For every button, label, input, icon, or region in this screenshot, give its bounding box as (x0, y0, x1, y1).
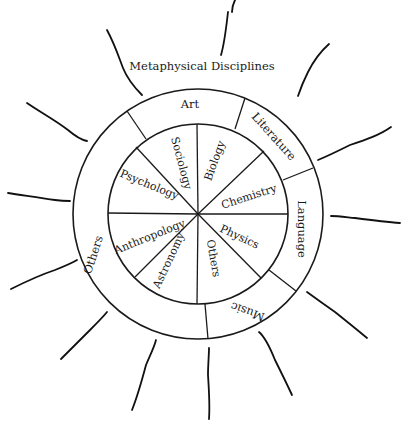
divider-art-literature (235, 98, 245, 129)
ray (221, 12, 228, 55)
divider-language-music (269, 270, 296, 291)
ray (307, 292, 367, 338)
outer-label-others: Others (80, 234, 106, 276)
outer-label-art: Art (180, 97, 200, 111)
ray (232, 0, 235, 12)
ray (61, 312, 107, 359)
ray (298, 44, 329, 96)
spoke (197, 124, 198, 214)
inner-label-physics: Physics (218, 222, 262, 252)
outer-label-literature: Literature (249, 110, 299, 164)
spoke (197, 214, 198, 304)
inner-label-chemistry: Chemistry (220, 181, 279, 211)
outer-label-music: Music (229, 299, 267, 324)
divider-music-others (205, 304, 208, 339)
disciplines-diagram: Metaphysical Disciplines Art Literature … (0, 0, 414, 426)
divider-literature-language (283, 168, 313, 180)
ray (8, 193, 70, 201)
outer-label-language: Language (295, 200, 309, 258)
ray (259, 332, 292, 395)
ray (208, 348, 209, 419)
ray (318, 127, 391, 160)
spoke (108, 213, 198, 214)
inner-label-others: Others (204, 239, 223, 279)
ray (27, 103, 87, 141)
ray (11, 260, 77, 289)
ray (331, 216, 400, 223)
divider-others-art (127, 111, 146, 139)
inner-label-biology: Biology (201, 138, 228, 182)
inner-spokes (108, 124, 288, 304)
ray (132, 340, 156, 410)
inner-label-sociology: Sociology (168, 135, 195, 191)
diagram-title: Metaphysical Disciplines (129, 59, 274, 73)
